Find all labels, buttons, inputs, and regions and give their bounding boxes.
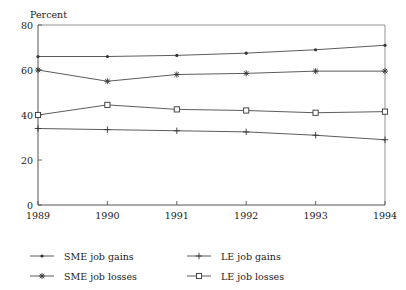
- series-line: [38, 105, 385, 115]
- marker-square: [196, 273, 201, 278]
- marker-dot: [40, 254, 43, 257]
- series-le-job-gains: [35, 125, 388, 143]
- marker-asterisk: [104, 78, 110, 84]
- marker-dot: [314, 48, 317, 51]
- chart-container: Percent 020406080 1989199019911992199319…: [0, 0, 406, 290]
- marker-square: [105, 102, 110, 107]
- x-tick-label: 1993: [304, 210, 328, 221]
- series-sme-job-gains: [36, 44, 386, 58]
- x-tick-label: 1989: [26, 210, 50, 221]
- marker-dot: [175, 54, 178, 57]
- chart-legend: SME job gainsLE job gainsSME job lossesL…: [30, 251, 284, 282]
- line-chart: Percent 020406080 1989199019911992199319…: [0, 0, 406, 290]
- y-tick-label: 60: [21, 65, 33, 76]
- marker-asterisk: [382, 68, 388, 74]
- legend-label: LE job losses: [221, 271, 284, 282]
- marker-asterisk: [313, 68, 319, 74]
- series-line: [38, 129, 385, 140]
- plot-frame: [38, 25, 385, 205]
- x-tick-label: 1992: [234, 210, 258, 221]
- marker-plus: [196, 253, 202, 259]
- y-tick-label: 80: [21, 20, 33, 31]
- marker-asterisk: [174, 72, 180, 78]
- legend-item-sme-job-losses[interactable]: SME job losses: [30, 271, 137, 282]
- legend-item-le-job-gains[interactable]: LE job gains: [187, 251, 281, 262]
- legend-label: SME job gains: [64, 251, 134, 262]
- marker-square: [313, 110, 318, 115]
- marker-plus: [35, 125, 41, 131]
- marker-square: [35, 112, 40, 117]
- plot-border: [38, 25, 385, 205]
- legend-item-le-job-losses[interactable]: LE job losses: [187, 271, 284, 282]
- y-tick-label: 20: [21, 155, 33, 166]
- legend-label: LE job gains: [221, 251, 281, 262]
- marker-plus: [174, 128, 180, 134]
- marker-plus: [104, 126, 110, 132]
- legend-label: SME job losses: [64, 271, 137, 282]
- series-line: [38, 70, 385, 81]
- marker-dot: [245, 52, 248, 55]
- x-axis-ticks: 198919901991199219931994: [26, 201, 397, 221]
- x-tick-label: 1990: [95, 210, 119, 221]
- marker-asterisk: [39, 273, 45, 279]
- series-sme-job-losses: [35, 67, 388, 84]
- legend-item-sme-job-gains[interactable]: SME job gains: [30, 251, 134, 262]
- series-le-job-losses: [35, 102, 387, 117]
- plot-axes: [38, 25, 385, 205]
- marker-square: [244, 108, 249, 113]
- x-tick-label: 1991: [165, 210, 189, 221]
- y-tick-label: 40: [21, 110, 33, 121]
- marker-dot: [36, 55, 39, 58]
- marker-plus: [382, 137, 388, 143]
- marker-plus: [312, 132, 318, 138]
- marker-dot: [106, 55, 109, 58]
- marker-asterisk: [243, 70, 249, 76]
- marker-plus: [243, 129, 249, 135]
- series-line: [38, 45, 385, 56]
- data-series-group: [35, 44, 388, 143]
- x-tick-label: 1994: [373, 210, 397, 221]
- marker-square: [174, 107, 179, 112]
- marker-asterisk: [35, 67, 41, 73]
- marker-dot: [383, 44, 386, 47]
- marker-square: [382, 109, 387, 114]
- y-tick-label: 0: [27, 200, 33, 211]
- y-axis-title: Percent: [30, 9, 67, 20]
